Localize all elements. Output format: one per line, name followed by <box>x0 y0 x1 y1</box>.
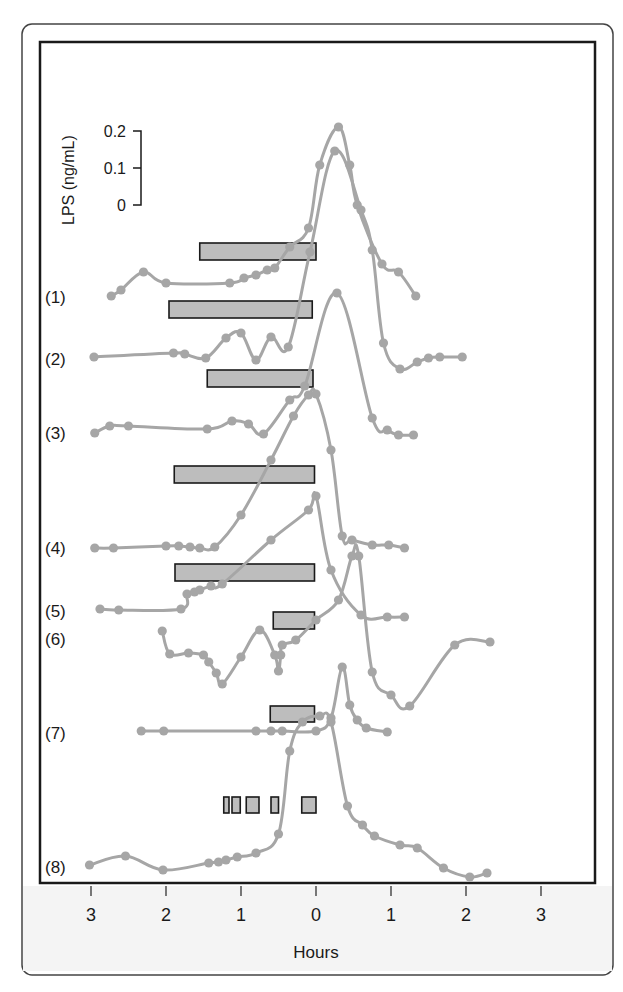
data-point <box>394 430 403 439</box>
data-point <box>158 626 167 635</box>
data-point <box>90 543 99 552</box>
data-point <box>221 855 230 864</box>
data-point <box>259 429 268 438</box>
data-point <box>458 352 467 361</box>
data-point <box>289 411 298 420</box>
row-label: (8) <box>45 858 66 877</box>
data-point <box>274 666 283 675</box>
data-point <box>90 428 99 437</box>
data-point <box>395 840 404 849</box>
data-point <box>405 701 414 710</box>
data-point <box>158 865 167 874</box>
stimulus-bar <box>175 564 315 581</box>
data-point <box>291 635 300 644</box>
data-point <box>383 425 392 434</box>
data-point <box>450 640 459 649</box>
data-point <box>95 604 104 613</box>
data-point <box>184 648 193 657</box>
data-point <box>300 381 309 390</box>
data-point <box>255 625 264 634</box>
data-point <box>343 801 352 810</box>
data-point <box>139 267 148 276</box>
data-point <box>236 510 245 519</box>
row-label: (2) <box>45 350 66 369</box>
stimulus-bar <box>270 706 314 722</box>
data-point <box>368 245 377 254</box>
data-point <box>311 615 320 624</box>
stimulus-bar <box>271 797 279 813</box>
data-point <box>201 353 210 362</box>
data-point <box>212 668 221 677</box>
data-point <box>400 543 409 552</box>
data-point <box>204 657 213 666</box>
data-point <box>251 726 260 735</box>
data-point <box>195 543 204 552</box>
row-label: (4) <box>45 539 66 558</box>
data-point <box>270 263 279 272</box>
data-point <box>411 291 420 300</box>
data-point <box>218 679 227 688</box>
scale-tick-0-1: 0.1 <box>104 160 126 177</box>
data-point <box>332 288 341 297</box>
data-point <box>383 612 392 621</box>
data-point <box>326 445 335 454</box>
x-tick-label: 1 <box>386 905 396 925</box>
data-point <box>358 820 367 829</box>
data-point <box>174 541 183 550</box>
data-point <box>285 746 294 755</box>
data-point <box>109 543 118 552</box>
data-point <box>161 541 170 550</box>
data-point <box>338 531 347 540</box>
x-tick-label: 2 <box>161 905 171 925</box>
data-point <box>266 535 275 544</box>
data-point <box>276 650 285 659</box>
data-point <box>180 349 189 358</box>
data-point <box>326 565 335 574</box>
data-point <box>395 364 404 373</box>
data-point <box>338 662 347 671</box>
data-point <box>384 540 393 549</box>
data-point <box>353 715 362 724</box>
data-point <box>354 551 363 560</box>
data-point <box>266 726 275 735</box>
x-tick-label: 3 <box>86 905 96 925</box>
data-point <box>105 421 114 430</box>
data-point <box>165 649 174 658</box>
data-point <box>85 860 94 869</box>
data-point <box>203 424 212 433</box>
data-point <box>176 604 185 613</box>
data-point <box>169 348 178 357</box>
data-point <box>236 328 245 337</box>
data-point <box>225 278 234 287</box>
data-point <box>285 395 294 404</box>
data-point <box>233 852 242 861</box>
data-point <box>218 579 227 588</box>
data-point <box>195 585 204 594</box>
data-point <box>159 726 168 735</box>
data-point <box>435 352 444 361</box>
data-point <box>161 278 170 287</box>
data-point <box>210 542 219 551</box>
data-point <box>334 595 343 604</box>
row-label: (7) <box>45 724 66 743</box>
data-point <box>298 717 307 726</box>
data-point <box>121 851 130 860</box>
stimulus-bar <box>200 243 316 260</box>
stimulus-bar <box>169 301 312 318</box>
stimulus-bar <box>246 797 259 813</box>
data-point <box>368 667 377 676</box>
stimulus-bar <box>207 370 313 387</box>
row-label: (6) <box>45 630 66 649</box>
x-axis-title: Hours <box>293 943 338 962</box>
data-point <box>89 352 98 361</box>
data-point <box>278 726 287 735</box>
data-point <box>377 259 386 268</box>
data-point <box>305 247 314 256</box>
data-point <box>400 612 409 621</box>
data-point <box>413 843 422 852</box>
data-point <box>368 413 377 422</box>
data-point <box>124 421 133 430</box>
data-point <box>485 637 494 646</box>
data-point <box>330 146 339 155</box>
data-point <box>356 205 365 214</box>
